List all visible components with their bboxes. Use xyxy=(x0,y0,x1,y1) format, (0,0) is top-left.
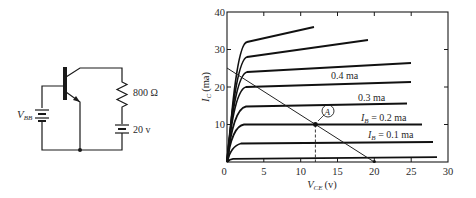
battery-20v-bottom-wire xyxy=(80,133,122,150)
curve-ib-0.7 xyxy=(228,27,314,162)
curve-label-0.4: 0.4 ma xyxy=(331,70,359,81)
base-wire xyxy=(42,86,64,108)
characteristic-curves xyxy=(227,27,437,162)
vbb-label: VBB xyxy=(17,108,33,122)
svg-text:15: 15 xyxy=(332,166,343,177)
resistor-800-ohm xyxy=(117,78,127,124)
transistor-circuit-and-characteristics: VBB 800 Ω 20 v xyxy=(0,0,476,198)
curve-label-0.3: 0.3 ma xyxy=(358,92,386,103)
x-axis-label: VCE(v) xyxy=(307,179,337,192)
svg-text:20: 20 xyxy=(215,82,226,93)
load-line xyxy=(227,68,374,162)
y-axis-label: IC(ma) xyxy=(200,72,213,103)
curve-label-0.2: IB = 0.2 ma xyxy=(360,112,407,125)
ground-node-dot xyxy=(78,148,82,152)
svg-text:5: 5 xyxy=(261,166,266,177)
transistor-collector xyxy=(66,68,122,78)
circuit-diagram xyxy=(35,67,129,152)
curve-ib-0 xyxy=(227,157,437,162)
svg-text:20: 20 xyxy=(369,166,380,177)
resistor-label: 800 Ω xyxy=(133,87,158,98)
svg-text:10: 10 xyxy=(215,119,226,130)
x-tick-labels: 0 5 10 15 20 25 30 xyxy=(221,166,453,177)
vbb-battery-bottom-wire xyxy=(42,122,80,150)
curve-label-0.1: IB = 0.1 ma xyxy=(367,129,414,142)
emitter-arrow-icon xyxy=(73,96,80,102)
battery-label: 20 v xyxy=(133,124,151,135)
svg-text:40: 40 xyxy=(215,7,226,18)
point-a-label: A xyxy=(324,107,331,117)
svg-text:0: 0 xyxy=(221,166,226,177)
svg-text:25: 25 xyxy=(406,166,417,177)
load-line-intercept-dot xyxy=(373,160,376,163)
svg-text:10: 10 xyxy=(295,166,306,177)
svg-text:30: 30 xyxy=(215,44,226,55)
point-a-pointer xyxy=(318,115,324,121)
y-tick-labels: 10 20 30 40 xyxy=(215,7,226,130)
operating-point-dot xyxy=(313,122,318,127)
svg-text:30: 30 xyxy=(443,166,454,177)
